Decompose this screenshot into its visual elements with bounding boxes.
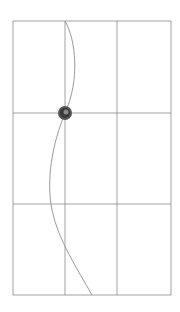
grid [13, 21, 171, 295]
sketch-curve [50, 21, 92, 295]
marker-dot [58, 106, 72, 120]
grid-outer-border [13, 21, 171, 295]
grid-diagram [0, 0, 180, 312]
